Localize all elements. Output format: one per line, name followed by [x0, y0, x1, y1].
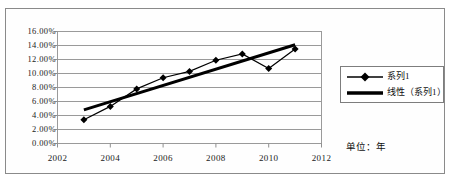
x-tick-label: 2010 — [249, 154, 289, 163]
chart-legend[interactable]: 系列1 线性（系列1） — [340, 66, 444, 103]
legend-item-series1[interactable]: 系列1 — [341, 69, 445, 85]
unit-annotation: 单位：年 — [346, 142, 386, 153]
legend-marker-diamond-line-icon — [346, 69, 384, 85]
legend-label: 系列1 — [387, 70, 410, 82]
chart-container: 16.00% 14.00% 12.00% 10.00% 8.00% 6.00% … — [0, 0, 453, 182]
x-tick-label: 2004 — [90, 154, 130, 163]
x-tick-label: 2006 — [143, 154, 183, 163]
legend-label: 线性（系列1） — [387, 86, 446, 98]
x-tick-label: 2002 — [38, 154, 78, 163]
x-tick-label: 2012 — [302, 154, 342, 163]
legend-item-trendline[interactable]: 线性（系列1） — [341, 85, 445, 101]
x-tick-label: 2008 — [196, 154, 236, 163]
legend-marker-thick-line-icon — [346, 85, 384, 101]
